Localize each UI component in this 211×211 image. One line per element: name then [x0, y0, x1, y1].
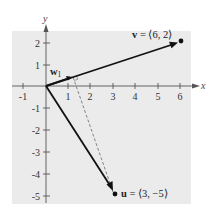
- x-tick-label: 2: [88, 91, 93, 102]
- vector-u-endpoint: [113, 192, 118, 197]
- x-tick-label: -1: [19, 91, 27, 102]
- y-tick-label: -4: [32, 169, 40, 180]
- x-tick-label: 6: [178, 91, 183, 102]
- y-tick-label: -3: [32, 147, 40, 158]
- x-tick-label: 3: [111, 91, 116, 102]
- y-tick-label: -1: [32, 103, 40, 114]
- y-tick-label: 2: [35, 38, 40, 49]
- vector-projection-diagram: -1 1 2 3 4 5 6 2 1 -1 -2 -3 -4 -5 x y v …: [0, 0, 211, 211]
- x-tick-label: 5: [156, 91, 161, 102]
- vector-u-components: = ⟨3, −5⟩: [127, 188, 168, 199]
- y-tick-label: 1: [35, 60, 40, 71]
- vector-v-label: v = ⟨6, 2⟩: [132, 29, 172, 40]
- x-tick-label: 1: [66, 91, 71, 102]
- y-axis-arrow-icon: [44, 24, 49, 32]
- vector-v-components: = ⟨6, 2⟩: [137, 29, 172, 40]
- x-axis-arrow-icon: [192, 84, 200, 89]
- x-tick-label: 4: [133, 91, 138, 102]
- y-axis-label: y: [42, 13, 48, 24]
- vector-w1-subscript: 1: [58, 70, 62, 79]
- x-axis-label: x: [200, 80, 206, 91]
- vector-u-label: u = ⟨3, −5⟩: [121, 188, 168, 199]
- y-tick-label: -2: [32, 125, 40, 136]
- vector-v-endpoint: [179, 39, 184, 44]
- y-tick-label: -5: [32, 191, 40, 202]
